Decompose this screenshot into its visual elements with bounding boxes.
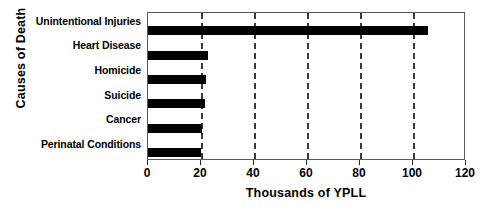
x-axis-tick [253,160,254,165]
bar [148,99,205,108]
x-axis-tick-label: 0 [144,166,151,180]
category-label-row: Heart Disease [18,37,144,62]
bar [148,124,202,133]
x-axis-tick [306,160,307,165]
bar [148,75,206,84]
x-axis-tick [465,160,466,165]
x-axis-tick-label: 60 [299,166,312,180]
x-axis-tick-label: 100 [402,166,422,180]
bar [148,51,208,60]
category-label-row: Unintentional Injuries [18,12,144,37]
category-label: Heart Disease [73,40,141,51]
bar-row [148,110,464,134]
x-axis-title: Thousands of YPLL [147,186,465,200]
category-label-row: Homicide [18,61,144,86]
bar-row [148,13,464,37]
x-axis-tick-label: 120 [455,166,475,180]
x-axis-tick-label: 20 [193,166,206,180]
bar-series [148,13,464,159]
bar-row [148,37,464,61]
category-label: Perinatal Conditions [41,139,141,150]
x-axis-tick [147,160,148,165]
x-axis-tick-label: 40 [246,166,259,180]
bar [148,26,428,35]
category-label-row: Suicide [18,86,144,111]
x-axis-tick-label: 80 [352,166,365,180]
bar-row [148,86,464,110]
bar-row [148,62,464,86]
category-label-row: Cancer [18,111,144,136]
category-label: Homicide [95,65,141,76]
bar-row [148,135,464,159]
x-axis-tick [359,160,360,165]
x-axis-tick [200,160,201,165]
category-label: Cancer [106,114,141,125]
category-label: Suicide [104,90,141,101]
bar [148,148,201,157]
category-axis-labels: Unintentional Injuries Heart Disease Hom… [18,12,144,160]
category-label: Unintentional Injuries [36,16,141,27]
category-label-row: Perinatal Conditions [18,135,144,160]
plot-area [147,12,465,160]
bar-chart: Causes of Death Unintentional Injuries H… [0,0,492,211]
x-axis-tick [412,160,413,165]
